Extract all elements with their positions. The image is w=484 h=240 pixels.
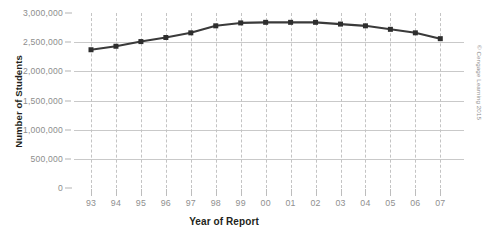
x-axis-tick-label: 04 [353, 198, 377, 208]
x-axis-tick-label: 93 [79, 198, 103, 208]
x-axis-tick-label: 99 [229, 198, 253, 208]
gridline-horizontal [74, 159, 464, 160]
x-axis-tick-mark [216, 189, 217, 196]
x-axis-tick-label: 94 [104, 198, 128, 208]
y-axis-title: Number of Students [13, 32, 24, 172]
x-axis-tick-mark [241, 189, 242, 196]
gridline-vertical [216, 13, 217, 188]
gridline-vertical [266, 13, 267, 188]
x-axis-tick-mark [341, 189, 342, 196]
x-axis-tick-mark [141, 189, 142, 196]
x-axis-tick-mark [291, 189, 292, 196]
gridline-horizontal [74, 42, 464, 43]
gridline-vertical [316, 13, 317, 188]
y-axis-tick-mark [65, 100, 71, 101]
gridline-vertical [191, 13, 192, 188]
gridline-vertical [116, 13, 117, 188]
y-axis-tick-label: 2,000,000 [23, 66, 63, 76]
line-chart: Number of Students 0500,0001,000,0001,50… [0, 0, 484, 240]
gridline-vertical [440, 13, 441, 188]
gridline-horizontal [74, 130, 464, 131]
y-axis-tick-mark [65, 158, 71, 159]
x-axis-title-label: Year of Report [189, 216, 259, 227]
x-axis-tick-label: 97 [179, 198, 203, 208]
x-axis-tick-mark [166, 189, 167, 196]
y-axis-tick-mark [65, 13, 72, 14]
gridline-horizontal [74, 71, 464, 72]
gridline-vertical [91, 13, 92, 188]
y-axis-tick-mark [65, 71, 71, 72]
x-axis-tick-label: 07 [428, 198, 452, 208]
y-axis-tick-mark [65, 42, 71, 43]
x-axis-tick-label: 98 [204, 198, 228, 208]
x-axis-title: Year of Report [0, 216, 484, 227]
x-axis-tick-mark [91, 189, 92, 196]
y-axis-tick-label: 3,000,000 [23, 8, 63, 18]
x-axis-tick-label: 00 [254, 198, 278, 208]
y-axis-tick-label: 0 [58, 183, 63, 193]
x-axis-tick-mark [316, 189, 317, 196]
y-axis-tick-label: 500,000 [31, 154, 63, 164]
gridline-horizontal [74, 101, 464, 102]
x-axis-tick-mark [440, 189, 441, 196]
y-axis-tick-mark [65, 129, 71, 130]
x-axis-tick-label: 03 [329, 198, 353, 208]
gridline-vertical [415, 13, 416, 188]
y-axis-tick-label: 1,500,000 [23, 96, 63, 106]
x-axis-tick-label: 95 [129, 198, 153, 208]
x-axis-tick-label: 06 [403, 198, 427, 208]
gridline-vertical [241, 13, 242, 188]
x-axis-tick-mark [365, 189, 366, 196]
gridline-vertical [166, 13, 167, 188]
x-axis-tick-mark [266, 189, 267, 196]
y-axis-tick-mark [65, 188, 72, 189]
x-axis-tick-label: 96 [154, 198, 178, 208]
gridline-vertical [390, 13, 391, 188]
x-axis-tick-mark [390, 189, 391, 196]
copyright-notice: © Cengage Learning 2015 [476, 45, 483, 120]
gridline-vertical [141, 13, 142, 188]
x-axis-tick-mark [191, 189, 192, 196]
x-axis-tick-mark [415, 189, 416, 196]
y-axis-tick-label: 1,000,000 [23, 125, 63, 135]
gridline-vertical [341, 13, 342, 188]
x-axis-tick-label: 05 [378, 198, 402, 208]
x-axis-tick-label: 02 [304, 198, 328, 208]
x-axis-tick-mark [116, 189, 117, 196]
y-axis-tick-label: 2,500,000 [23, 37, 63, 47]
x-axis-tick-label: 01 [279, 198, 303, 208]
gridline-vertical [291, 13, 292, 188]
gridline-vertical [365, 13, 366, 188]
